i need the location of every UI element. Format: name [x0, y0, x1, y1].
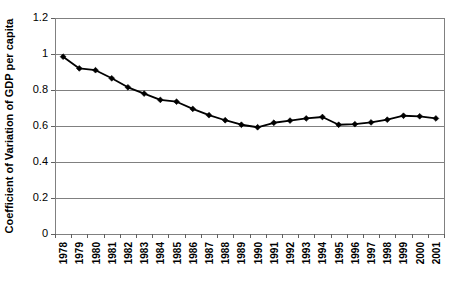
x-tick-label: 2001: [431, 242, 442, 265]
x-tick-label: 1988: [220, 242, 231, 265]
x-tick-label: 1992: [285, 242, 296, 265]
y-tick-label: 1: [42, 47, 48, 59]
x-tick-label: 1991: [269, 242, 280, 265]
x-tick-label: 1990: [253, 242, 264, 265]
y-tick-label: 0.2: [33, 191, 48, 203]
x-tick-label: 1980: [91, 242, 102, 265]
x-tick-label: 2000: [415, 242, 426, 265]
x-tick-label: 1993: [301, 242, 312, 265]
x-tick-label: 1994: [317, 242, 328, 265]
x-tick-label: 1996: [350, 242, 361, 265]
x-tick-label: 1998: [382, 242, 393, 265]
y-tick-label: 0.6: [33, 119, 48, 131]
x-tick-label: 1985: [172, 242, 183, 265]
line-chart: 00.20.40.60.811.2 1978197919801981198219…: [0, 0, 454, 282]
x-tick-label: 1982: [123, 242, 134, 265]
x-tick-label: 1999: [398, 242, 409, 265]
y-tick-label: 0.4: [33, 155, 48, 167]
x-tick-label: 1986: [188, 242, 199, 265]
x-tick-label: 1987: [204, 242, 215, 265]
chart-container: 00.20.40.60.811.2 1978197919801981198219…: [0, 0, 454, 282]
x-tick-label: 1979: [74, 242, 85, 265]
x-tick-label: 1989: [236, 242, 247, 265]
x-tick-label: 1978: [58, 242, 69, 265]
x-tick-label: 1984: [155, 242, 166, 265]
y-tick-label: 1.2: [33, 11, 48, 23]
y-tick-label: 0.8: [33, 83, 48, 95]
x-tick-label: 1997: [366, 242, 377, 265]
x-tick-label: 1981: [107, 242, 118, 265]
x-tick-label: 1995: [334, 242, 345, 265]
y-axis-title: Coefficient of Variation of GDP per capi…: [3, 18, 15, 234]
x-tick-label: 1983: [139, 242, 150, 265]
y-tick-label: 0: [42, 227, 48, 239]
plot-background: [0, 0, 454, 282]
